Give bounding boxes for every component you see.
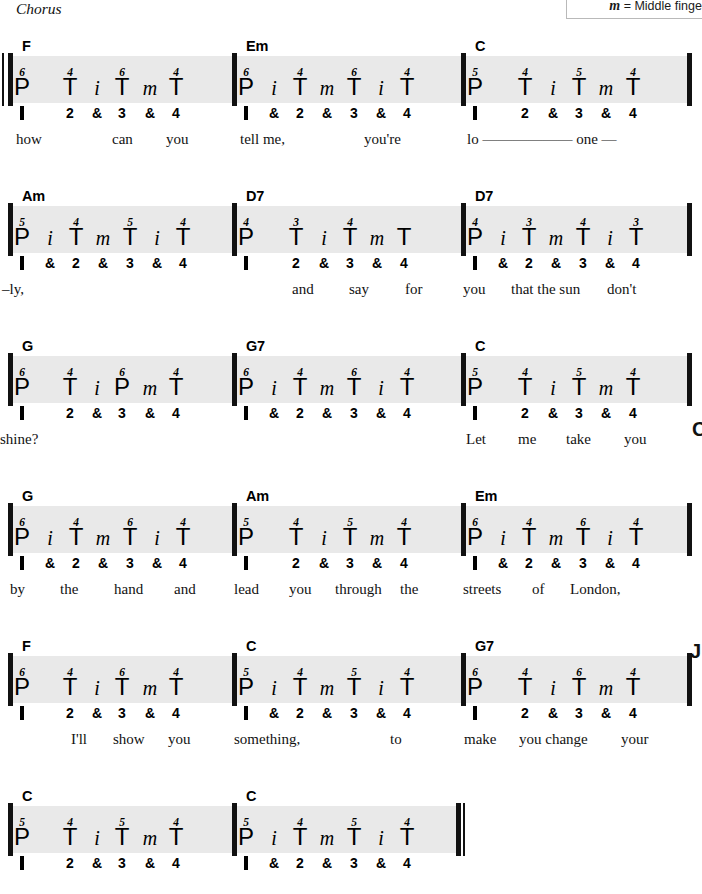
- stroke-symbol: 5T: [340, 525, 360, 549]
- string-number: 4: [404, 667, 410, 679]
- stroke-symbol: 4T: [60, 675, 80, 699]
- string-number: 6: [576, 667, 582, 679]
- count-row: 2&3&4: [232, 556, 461, 576]
- lyric-word: something,: [234, 732, 300, 747]
- lyric-row: [8, 882, 232, 894]
- stroke-symbol: 5T: [344, 825, 364, 849]
- stroke-glyph: T: [397, 825, 417, 849]
- count-label: 2: [60, 856, 80, 870]
- stroke-glyph: P: [236, 375, 256, 399]
- stroke-row: 6Pi4Tm6Ti4T: [461, 506, 692, 553]
- stroke-glyph: T: [290, 375, 310, 399]
- lyric-word: I'll: [71, 732, 87, 747]
- stroke-symbol: 4T: [626, 525, 646, 549]
- count-downbeat-mark: [236, 256, 256, 270]
- stroke-glyph: T: [60, 675, 80, 699]
- string-number: 3: [633, 217, 639, 229]
- stroke-symbol: m: [596, 379, 616, 399]
- string-number: 3: [526, 217, 532, 229]
- stroke-symbol: 4T: [397, 75, 417, 99]
- count-label: &: [371, 706, 391, 720]
- count-label: 2: [66, 256, 86, 270]
- string-number: 4: [347, 217, 353, 229]
- count-row: &2&3&4: [8, 256, 232, 276]
- lyric-word: you're: [364, 132, 401, 147]
- stroke-symbol: i: [87, 79, 107, 99]
- count-label: &: [367, 556, 387, 570]
- count-label: 4: [173, 556, 193, 570]
- stroke-symbol: 4T: [290, 375, 310, 399]
- lyric-row: tell me,you're: [232, 132, 461, 154]
- lyric-word: and: [292, 282, 314, 297]
- count-label: 4: [623, 106, 643, 120]
- stroke-symbol: m: [546, 529, 566, 549]
- stroke-row: 5P4Ti5Tm4T: [461, 56, 692, 103]
- stroke-symbol: T: [394, 225, 414, 249]
- chord-symbol: G7: [246, 338, 265, 354]
- stroke-symbol: 4T: [515, 75, 535, 99]
- stroke-glyph: i: [543, 678, 563, 698]
- count-label: 4: [397, 706, 417, 720]
- count-label: &: [140, 406, 160, 420]
- string-number: 4: [580, 217, 586, 229]
- count-label: 2: [60, 406, 80, 420]
- count-label: 4: [397, 406, 417, 420]
- stroke-symbol: i: [543, 79, 563, 99]
- lyric-row: –ly,: [8, 282, 232, 304]
- stroke-glyph: T: [344, 825, 364, 849]
- count-downbeat-mark: [465, 256, 485, 270]
- lyric-row: I'llshowyou: [8, 732, 232, 754]
- stroke-symbol: 5P: [465, 375, 485, 399]
- count-label: 3: [120, 556, 140, 570]
- barline-end: [687, 53, 692, 106]
- string-number: 4: [73, 517, 79, 529]
- stroke-glyph: P: [465, 375, 485, 399]
- stroke-glyph: T: [166, 825, 186, 849]
- count-label: 2: [290, 706, 310, 720]
- stroke-symbol: 6P: [112, 375, 132, 399]
- legend-box: m = Middle finger: [566, 0, 702, 19]
- count-label: &: [87, 406, 107, 420]
- stroke-glyph: T: [60, 825, 80, 849]
- stroke-symbol: i: [264, 679, 284, 699]
- count-label: 2: [515, 406, 535, 420]
- stroke-symbol: 6P: [12, 675, 32, 699]
- string-number: 4: [522, 667, 528, 679]
- lyric-word: show: [113, 732, 145, 747]
- stroke-glyph: P: [12, 675, 32, 699]
- stroke-glyph: P: [465, 225, 485, 249]
- string-number: 4: [67, 667, 73, 679]
- section-label-chorus: Chorus: [16, 0, 62, 18]
- count-label: 4: [394, 556, 414, 570]
- stroke-glyph: m: [93, 528, 113, 548]
- count-row: &2&3&4: [232, 706, 461, 726]
- count-label: &: [543, 106, 563, 120]
- stroke-symbol: 3T: [626, 225, 646, 249]
- lyric-word: you change: [519, 732, 588, 747]
- count-label: &: [87, 706, 107, 720]
- lyric-word: and: [174, 582, 196, 597]
- stroke-symbol: i: [147, 529, 167, 549]
- count-downbeat-mark: [236, 706, 256, 720]
- stroke-row: 5Pi4Tm5Ti4T: [232, 806, 461, 853]
- count-label: 4: [394, 256, 414, 270]
- stroke-symbol: 6T: [112, 675, 132, 699]
- count-label: &: [317, 106, 337, 120]
- count-label: &: [93, 556, 113, 570]
- lyric-word: don't: [607, 282, 636, 297]
- count-label: &: [264, 856, 284, 870]
- stroke-glyph: P: [465, 675, 485, 699]
- count-downbeat-mark: [465, 106, 485, 120]
- stroke-glyph: P: [112, 375, 132, 399]
- stroke-symbol: m: [140, 379, 160, 399]
- lyric-word: streets: [463, 582, 501, 597]
- stroke-glyph: T: [623, 375, 643, 399]
- stroke-glyph: T: [626, 225, 646, 249]
- stroke-glyph: m: [317, 678, 337, 698]
- stroke-glyph: T: [66, 525, 86, 549]
- stroke-glyph: i: [371, 378, 391, 398]
- string-number: 4: [67, 367, 73, 379]
- stroke-symbol: 5P: [12, 825, 32, 849]
- stroke-symbol: i: [371, 379, 391, 399]
- count-downbeat-mark: [236, 406, 256, 420]
